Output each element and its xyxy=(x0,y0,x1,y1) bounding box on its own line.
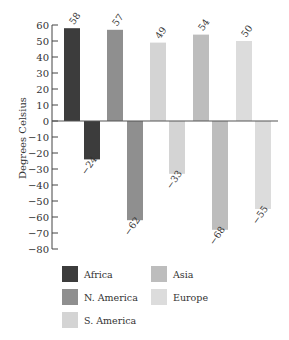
y-tick-label: 50 xyxy=(36,36,49,47)
legend-label-europe: Europe xyxy=(173,292,208,303)
y-tick-label: 60 xyxy=(36,20,49,31)
bar-low-s-america xyxy=(169,121,185,174)
y-tick-label: −80 xyxy=(28,244,49,255)
y-tick-label: 40 xyxy=(36,52,49,63)
y-tick-label: 30 xyxy=(36,68,49,79)
bar-high-n-america xyxy=(107,30,123,121)
legend-item-africa: Africa xyxy=(62,266,113,282)
y-tick-label: 20 xyxy=(36,84,49,95)
bar-low-asia xyxy=(212,121,228,230)
y-tick-label: −60 xyxy=(28,212,49,223)
bar-high-s-america xyxy=(150,43,166,121)
bar-high-asia xyxy=(193,35,209,121)
data-label-high-n-america: 57 xyxy=(110,12,126,28)
bar-low-africa xyxy=(84,121,100,159)
bar-low-n-america xyxy=(127,121,143,220)
bar-high-africa xyxy=(64,28,80,121)
y-tick-label: 0 xyxy=(43,116,49,127)
data-label-high-europe: 50 xyxy=(239,23,255,39)
legend-swatch-asia xyxy=(151,266,167,282)
legend-label-n-america: N. America xyxy=(84,292,138,303)
temperature-bar-chart: 6050403020100−10−20−30−40−50−60−70−8058−… xyxy=(0,0,289,340)
legend-swatch-n-america xyxy=(62,289,78,305)
legend-swatch-s-america xyxy=(62,312,78,328)
data-label-high-africa: 58 xyxy=(67,10,83,26)
data-label-high-asia: 54 xyxy=(196,17,212,33)
data-label-high-s-america: 49 xyxy=(153,25,169,41)
legend-label-asia: Asia xyxy=(173,269,193,280)
y-tick-label: −10 xyxy=(28,132,49,143)
legend-item-n-america: N. America xyxy=(62,289,138,305)
legend-item-asia: Asia xyxy=(151,266,193,282)
y-tick-label: 10 xyxy=(36,100,49,111)
bar-low-europe xyxy=(255,121,271,209)
legend-swatch-europe xyxy=(151,289,167,305)
bar-high-europe xyxy=(236,41,252,121)
y-tick-label: −20 xyxy=(28,148,49,159)
legend-swatch-africa xyxy=(62,266,78,282)
legend-label-s-america: S. America xyxy=(84,315,136,326)
legend-item-s-america: S. America xyxy=(62,312,136,328)
legend-label-africa: Africa xyxy=(84,269,113,280)
legend-item-europe: Europe xyxy=(151,289,208,305)
y-tick-label: −40 xyxy=(28,180,49,191)
y-tick-label: −70 xyxy=(28,228,49,239)
y-tick-label: −30 xyxy=(28,164,49,175)
y-tick-label: −50 xyxy=(28,196,49,207)
y-axis-label: Degrees Celsius xyxy=(17,97,28,179)
